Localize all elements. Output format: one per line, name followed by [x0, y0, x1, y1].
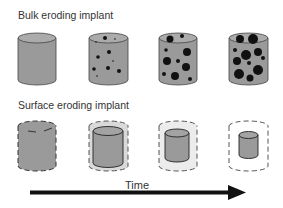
bulk-cylinder-1 [18, 33, 56, 85]
erosion-diagram: Bulk eroding implant Surface eroding imp… [0, 0, 283, 208]
time-arrow [30, 185, 246, 200]
bulk-cylinder-4 [229, 33, 268, 85]
diagram-graphics [0, 0, 283, 208]
surface-cylinder-4 [229, 121, 268, 171]
surface-cylinder-3 [159, 121, 197, 171]
surface-cylinder-1 [18, 121, 56, 171]
bulk-cylinder-3 [159, 33, 197, 85]
surface-cylinder-2 [89, 121, 128, 171]
bulk-cylinder-2 [89, 33, 128, 85]
